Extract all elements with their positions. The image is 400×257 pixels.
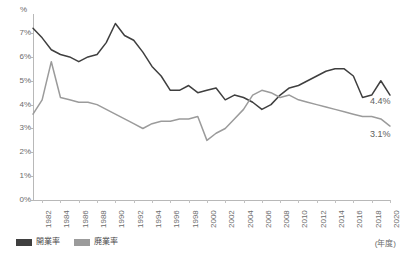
line-chart: % 0%1%2%3%4%5%6%7% 198219841986198819901… xyxy=(0,0,400,257)
y-axis-tick xyxy=(30,176,33,177)
legend-item[interactable]: 廃業率 xyxy=(74,238,118,246)
chart-legend: 開業率廃業率 xyxy=(16,238,118,246)
legend-label: 開業率 xyxy=(36,238,60,246)
y-axis-tick xyxy=(30,200,33,201)
y-axis-tick xyxy=(30,152,33,153)
y-axis-tick xyxy=(30,57,33,58)
y-axis-tick xyxy=(30,128,33,129)
series-plot xyxy=(0,0,400,257)
x-axis-unit-label: (年度) xyxy=(375,240,396,248)
legend-item[interactable]: 開業率 xyxy=(16,238,60,246)
legend-swatch-icon xyxy=(74,239,90,246)
legend-label: 廃業率 xyxy=(94,238,118,246)
endpoint-label-close-rate: 3.1% xyxy=(370,130,391,139)
legend-swatch-icon xyxy=(16,239,32,246)
series-line xyxy=(33,24,390,110)
endpoint-label-open-rate: 4.4% xyxy=(370,97,391,106)
y-axis-tick xyxy=(30,105,33,106)
y-axis-tick xyxy=(30,81,33,82)
y-axis-tick xyxy=(30,33,33,34)
series-line xyxy=(33,62,390,141)
